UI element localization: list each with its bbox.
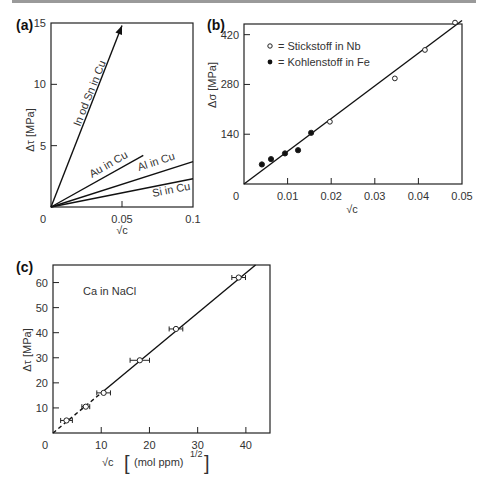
y-tick-label: 50 <box>36 302 48 314</box>
y-tick-label: 30 <box>36 352 48 364</box>
panel-b: (b) 00.010.020.030.040.05140280420 Δσ [M… <box>206 17 473 215</box>
open-point <box>453 20 458 25</box>
x-tick-label: 10 <box>95 439 107 451</box>
y-tick-label: 60 <box>36 277 48 289</box>
panel-c-ylabel: Δτ [MPa] <box>21 328 33 371</box>
x-tick-label: 0.01 <box>277 190 298 202</box>
panel-b-ticks: 00.010.020.030.040.05140280420 <box>221 29 473 202</box>
panel-a-label: (a) <box>16 17 33 33</box>
x-tick-label: 0.03 <box>364 190 385 202</box>
y-tick-label: 5 <box>40 140 46 152</box>
panel-c-xlabel-main: √c <box>102 456 114 468</box>
x-tick-label: 0.04 <box>408 190 429 202</box>
y-tick-label: 10 <box>36 402 48 414</box>
panel-c-xlabel-unit: (mol ppm) <box>134 456 184 468</box>
x-tick-label: 40 <box>240 439 252 451</box>
open-point <box>327 119 332 124</box>
filled-point <box>268 157 273 162</box>
fit-line-dashed <box>53 393 101 433</box>
filled-point <box>259 162 264 167</box>
open-point <box>423 48 428 53</box>
filled-point <box>295 148 300 153</box>
panel-b-xlabel: √c <box>346 203 358 215</box>
arrowhead-icon <box>115 25 122 35</box>
panel-c-xlabel: √c [ (mol ppm) 1/2 ] <box>102 449 210 474</box>
panel-c-xlabel-exp: 1/2 <box>190 449 203 459</box>
y-tick-label: 20 <box>36 377 48 389</box>
panel-a-lines <box>51 25 193 207</box>
bracket-left: [ <box>124 452 130 474</box>
figure: (a) 00.050.151015 Δτ [MPa] √c In od Sn i… <box>0 0 484 488</box>
panel-c-label: (c) <box>16 259 33 275</box>
open-point <box>137 358 142 363</box>
panel-a: (a) 00.050.151015 Δτ [MPa] √c In od Sn i… <box>16 17 201 236</box>
x-tick-label: 0 <box>233 190 239 202</box>
y-tick-label: 10 <box>34 78 46 90</box>
label-in-sn-cu: In od Sn in Cu <box>71 59 108 128</box>
x-tick-label: 0.1 <box>185 213 200 225</box>
panel-b-ylabel: Δσ [MPa] <box>206 62 218 108</box>
open-point <box>236 275 241 280</box>
panel-c-ticks: 010203040102030405060 <box>36 277 252 451</box>
x-tick-label: 20 <box>143 439 155 451</box>
panel-a-frame <box>51 23 193 207</box>
y-tick-label: 15 <box>34 17 46 29</box>
legend-filled-circle-icon <box>268 60 273 65</box>
filled-point <box>309 130 314 135</box>
x-tick-label: 0 <box>40 213 46 225</box>
open-point <box>64 418 69 423</box>
legend-kohlenstoff: = Kohlenstoff in Fe <box>278 56 370 68</box>
y-tick-label: 280 <box>221 78 239 90</box>
bracket-right: ] <box>204 452 210 474</box>
panel-a-ylabel: Δτ [MPa] <box>24 108 36 151</box>
y-tick-label: 40 <box>36 327 48 339</box>
open-point <box>173 326 178 331</box>
open-point <box>101 390 106 395</box>
open-point <box>392 76 397 81</box>
panel-c: (c) 010203040102030405060 Δτ [MPa] Ca in… <box>16 259 270 474</box>
y-tick-label: 140 <box>221 128 239 140</box>
label-ca-nacl: Ca in NaCl <box>83 285 136 297</box>
y-tick-label: 420 <box>221 29 239 41</box>
label-si-cu: Si in Cu <box>151 180 191 199</box>
legend-stickstoff: = Stickstoff in Nb <box>278 40 361 52</box>
open-point <box>83 404 88 409</box>
legend-open-circle-icon <box>268 44 272 48</box>
filled-point <box>282 151 287 156</box>
x-tick-label: 0.02 <box>320 190 341 202</box>
panel-a-xlabel: √c <box>116 224 128 236</box>
x-tick-label: 0 <box>42 439 48 451</box>
x-tick-label: 0.05 <box>451 190 472 202</box>
